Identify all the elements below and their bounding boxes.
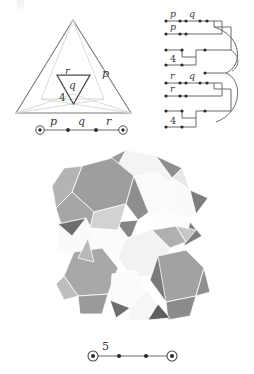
fundamental-triangle: p 4 r q (16, 20, 131, 113)
uniform-polyhedron-rendering (30, 138, 225, 333)
coxeter-node-n4 (119, 126, 127, 134)
coxeter5-node-m2 (117, 354, 121, 358)
top-panel: p 4 r q p q (0, 0, 254, 140)
schematic-label-row5-q: q (189, 70, 195, 81)
triangle-label-r: r (65, 65, 71, 76)
coxeter-node-n3 (94, 128, 98, 132)
coxeter-edge-label-q: q (78, 115, 85, 128)
coxeter-edge-label-r: r (106, 115, 112, 128)
figure-root: p 4 r q p q (0, 0, 254, 374)
coxeter-diagram-pqr: p q r (36, 115, 127, 134)
solid-panel (30, 138, 225, 333)
schematic-label-row5-r: r (170, 70, 176, 81)
triangle-label-p: p (102, 67, 109, 80)
coxeter-diagram-5: 5 (0, 330, 254, 374)
schematic-label-row2-p: p (170, 21, 176, 32)
triangle-label-4: 4 (59, 91, 66, 103)
coxeter5-node-m4 (167, 351, 177, 361)
coxeter5-node-m1 (88, 351, 98, 361)
schematic-label-row8-4: 4 (170, 115, 176, 126)
triangle-label-q: q (69, 79, 76, 91)
branched-coxeter-schematic: p q p 4 r q r 4 (164, 8, 237, 129)
schematic-label-row6-r: r (170, 83, 176, 94)
coxeter5-edge-label-5: 5 (102, 340, 109, 353)
face-lobe-lower-left-2 (78, 294, 108, 314)
coxeter-edge-label-p: p (50, 115, 57, 128)
top-panel-svg: p 4 r q p q (0, 0, 254, 140)
schematic-label-row4-4: 4 (170, 53, 176, 64)
bottom-panel: 5 (0, 330, 254, 374)
schematic-label-row1-p: p (170, 8, 176, 19)
coxeter-node-n1 (36, 126, 44, 134)
coxeter-node-n2 (66, 128, 70, 132)
construction-lines (16, 20, 131, 113)
schematic-label-row1-q: q (189, 8, 195, 19)
coxeter5-node-m3 (144, 354, 148, 358)
